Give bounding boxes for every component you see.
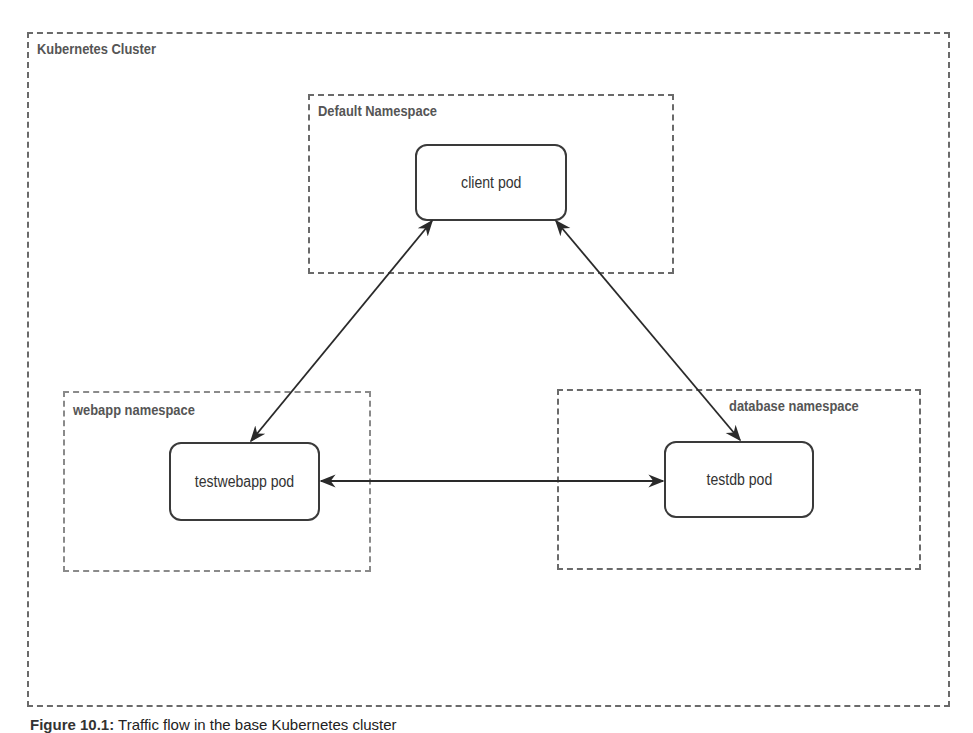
caption-prefix: Figure 10.1: xyxy=(30,716,114,733)
default-namespace-label: Default Namespace xyxy=(318,102,437,119)
testwebapp-pod: testwebapp pod xyxy=(169,442,320,521)
cluster-label: Kubernetes Cluster xyxy=(37,40,156,57)
testdb-pod-label: testdb pod xyxy=(706,471,772,489)
database-namespace-label: database namespace xyxy=(729,397,859,414)
figure-caption: Figure 10.1: Traffic flow in the base Ku… xyxy=(30,716,397,733)
testdb-pod: testdb pod xyxy=(664,441,814,518)
webapp-namespace-label: webapp namespace xyxy=(73,401,195,418)
caption-text: Traffic flow in the base Kubernetes clus… xyxy=(118,716,396,733)
client-pod: client pod xyxy=(415,144,567,221)
testwebapp-pod-label: testwebapp pod xyxy=(195,473,294,491)
client-pod-label: client pod xyxy=(461,174,521,192)
